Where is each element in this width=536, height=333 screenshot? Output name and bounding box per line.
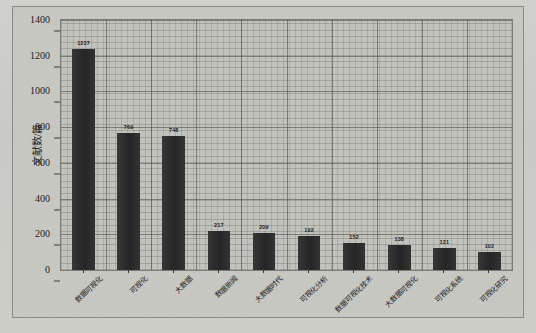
y-axis-tick-label: 800 xyxy=(35,121,50,132)
bar-value-label: 217 xyxy=(214,222,224,228)
bar xyxy=(253,233,276,270)
gridline-vertical xyxy=(151,20,152,270)
gridline-vertical xyxy=(422,20,423,270)
x-axis-category-label: 可视化分析 xyxy=(297,273,329,305)
bar xyxy=(478,252,501,270)
gridline-horizontal xyxy=(61,56,512,57)
x-axis-tick-mark xyxy=(488,269,489,273)
x-axis-tick-mark xyxy=(173,269,174,273)
bar xyxy=(433,248,456,270)
x-axis-category-label: 数据可视化 xyxy=(72,273,104,305)
x-axis-tick-mark xyxy=(398,269,399,273)
y-axis-tick-label: 1000 xyxy=(30,85,50,96)
gridline-vertical xyxy=(196,20,197,270)
x-axis-tick-mark xyxy=(263,269,264,273)
y-axis-tick-label: 600 xyxy=(35,156,50,167)
y-axis-tick-label: 1200 xyxy=(30,49,50,60)
bar-value-label: 102 xyxy=(485,243,495,249)
gridline-horizontal xyxy=(61,91,512,92)
bar xyxy=(388,245,411,270)
y-axis-tick-label: 0 xyxy=(45,264,50,275)
x-axis-labels: 数据可视化可视化大数据数据新闻大数据时代可视化分析数据可视化技术大数据可视化可视… xyxy=(60,273,513,319)
bar-value-label: 121 xyxy=(440,239,450,245)
gridline-vertical xyxy=(377,20,378,270)
bar xyxy=(343,243,366,270)
x-axis-tick-mark xyxy=(218,269,219,273)
plot-area: 1237769748217209192152138121102 xyxy=(60,19,513,271)
x-axis-category-label: 数据可视化技术 xyxy=(332,273,374,315)
x-axis-category-label: 大数据时代 xyxy=(252,273,284,305)
gridline-vertical xyxy=(287,20,288,270)
y-axis-tick-label: 1400 xyxy=(30,14,50,25)
x-axis-tick-mark xyxy=(308,269,309,273)
bar-value-label: 769 xyxy=(124,124,134,130)
x-axis-category-label: 数据新闻 xyxy=(212,273,239,300)
bar-chart: 文献数/篇 0200400600800100012001400 12377697… xyxy=(12,6,524,318)
y-axis-tick-label: 200 xyxy=(35,228,50,239)
bar-value-label: 138 xyxy=(394,236,404,242)
x-axis-category-label: 可视化系统 xyxy=(433,273,465,305)
bar xyxy=(162,136,185,270)
gridline-horizontal xyxy=(61,20,512,21)
gridline-vertical xyxy=(106,20,107,270)
bar-value-label: 748 xyxy=(169,127,179,133)
bar-value-label: 152 xyxy=(349,234,359,240)
bar xyxy=(72,49,95,270)
x-axis-category-label: 大数据 xyxy=(172,273,194,295)
gridline-vertical xyxy=(467,20,468,270)
x-axis-tick-mark xyxy=(128,269,129,273)
x-axis-category-label: 可视化研究 xyxy=(478,273,510,305)
gridline-vertical xyxy=(332,20,333,270)
y-axis-tick-label: 400 xyxy=(35,192,50,203)
bar-value-label: 209 xyxy=(259,224,269,230)
bar-value-label: 1237 xyxy=(77,40,90,46)
bar xyxy=(298,236,321,270)
x-axis-tick-mark xyxy=(353,269,354,273)
y-axis: 文献数/篇 0200400600800100012001400 xyxy=(13,19,60,271)
x-axis-category-label: 大数据可视化 xyxy=(383,273,420,310)
bar-value-label: 192 xyxy=(304,227,314,233)
gridline-vertical xyxy=(241,20,242,270)
x-axis-tick-mark xyxy=(83,269,84,273)
bar xyxy=(208,231,231,270)
bar xyxy=(117,133,140,270)
x-axis-tick-mark xyxy=(443,269,444,273)
x-axis-category-label: 可视化 xyxy=(127,273,149,295)
